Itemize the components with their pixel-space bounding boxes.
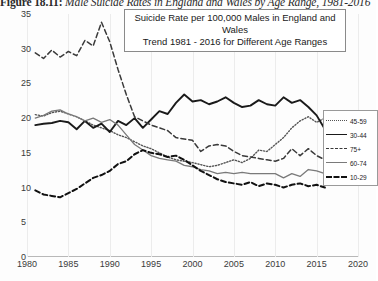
series-line-60-74 [35,110,325,178]
annotation-line-1: Suicide Rate per 100,000 Males in Englan… [128,12,342,36]
legend-item-45-59[interactable]: 45-59 [326,114,375,128]
chart-annotation-box: Suicide Rate per 100,000 Males in Englan… [124,9,346,52]
legend-item-10-29[interactable]: 10-29 [326,170,375,184]
legend-item-75+[interactable]: 75+ [326,142,375,156]
x-tick-label: 2015 [307,259,327,269]
legend-label: 45-59 [350,118,367,125]
x-tick-label: 1990 [100,259,120,269]
legend-label: 75+ [350,146,361,153]
x-tick-label: 1985 [58,259,78,269]
series-line-10-29 [35,150,325,197]
legend-label: 30-44 [350,132,367,139]
x-tick-label: 1995 [141,259,161,269]
annotation-line-2: Trend 1981 - 2016 for Different Age Rang… [128,36,342,48]
figure-caption-text: Male Suicide Rates in England and Wales … [62,0,370,8]
x-tick-label: 2005 [224,259,244,269]
legend-label: 10-29 [350,174,367,181]
legend-label: 60-74 [350,160,367,167]
legend-item-60-74[interactable]: 60-74 [326,156,375,170]
x-tick-label: 2020 [348,259,368,269]
x-tick-label: 1980 [17,259,37,269]
x-tick-label: 2000 [182,259,202,269]
legend-item-30-44[interactable]: 30-44 [326,128,375,142]
series-line-30-44 [35,95,325,132]
x-tick-label: 2010 [265,259,285,269]
chart-legend: 45-5930-4475+60-7410-29 [323,110,378,186]
figure-caption-label: Figure 18.11: [0,0,62,8]
